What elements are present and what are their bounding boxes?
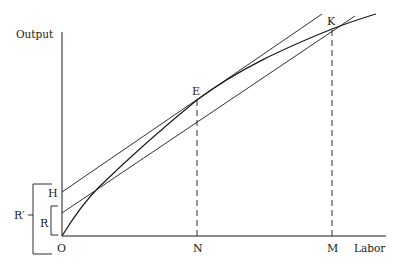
label-r: R — [40, 217, 49, 230]
bracket-r — [51, 206, 58, 235]
production-curve — [62, 14, 376, 236]
label-e: E — [192, 85, 200, 98]
tangent-line-h — [62, 14, 322, 192]
label-k: K — [327, 15, 336, 28]
label-r-prime: R′ — [14, 209, 25, 222]
line-r-k — [62, 16, 355, 213]
y-axis-label: Output — [16, 28, 54, 40]
label-n: N — [193, 242, 203, 255]
label-h: H — [48, 187, 58, 200]
label-origin: O — [57, 242, 66, 255]
label-m: M — [327, 242, 338, 255]
x-axis-label: Labor — [354, 242, 386, 254]
production-diagram: Output Labor O H R R′ E K N M — [0, 0, 401, 264]
